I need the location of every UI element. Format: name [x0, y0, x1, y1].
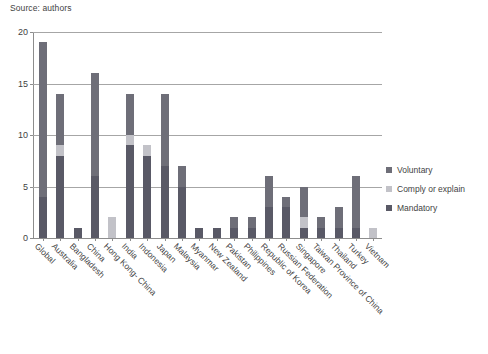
bar-segment-mandatory	[230, 228, 238, 238]
bar-segment-voluntary	[335, 207, 343, 228]
bar-slot	[138, 32, 155, 238]
bar-segment-voluntary	[39, 42, 47, 197]
legend-label: Mandatory	[397, 203, 437, 213]
stacked-bar[interactable]	[56, 94, 64, 238]
bar-slot	[330, 32, 347, 238]
bar-slot	[295, 32, 312, 238]
x-axis-tick-mark	[234, 238, 235, 241]
bar-segment-mandatory	[126, 145, 134, 238]
x-axis-tick-mark	[95, 238, 96, 241]
stacked-bar[interactable]	[352, 176, 360, 238]
bar-segment-voluntary	[126, 94, 134, 135]
x-axis-tick-mark	[286, 238, 287, 241]
x-axis-tick-mark	[130, 238, 131, 241]
x-axis-line	[33, 238, 382, 239]
bar-slot	[208, 32, 225, 238]
bar-segment-mandatory	[265, 207, 273, 238]
bar-slot	[86, 32, 103, 238]
legend-item[interactable]: Mandatory	[386, 198, 486, 217]
stacked-bar[interactable]	[143, 145, 151, 238]
legend-item[interactable]: Comply or explain	[386, 179, 486, 198]
chart-figure: Source: authors 05101520 GlobalAustralia…	[0, 0, 488, 354]
bar-slot	[260, 32, 277, 238]
y-axis-tick-mark	[30, 135, 33, 136]
bar-segment-voluntary	[91, 73, 99, 176]
bar-slot	[225, 32, 242, 238]
stacked-bar[interactable]	[178, 166, 186, 238]
stacked-bar[interactable]	[282, 197, 290, 238]
bar-segment-comply-or-explain	[126, 135, 134, 145]
x-axis-tick-mark	[304, 238, 305, 241]
bar-slot	[156, 32, 173, 238]
x-axis-tick-mark	[182, 238, 183, 241]
bar-slot	[191, 32, 208, 238]
stacked-bar[interactable]	[161, 94, 169, 238]
bar-segment-comply-or-explain	[56, 145, 64, 155]
y-axis-tick-mark	[30, 32, 33, 33]
bar-segment-mandatory	[317, 228, 325, 238]
x-axis-tick-mark	[147, 238, 148, 241]
bar-segment-mandatory	[195, 228, 203, 238]
stacked-bar[interactable]	[317, 217, 325, 238]
bar-segment-comply-or-explain	[300, 217, 308, 227]
bar-segment-voluntary	[178, 166, 186, 187]
x-axis-tick-mark	[252, 238, 253, 241]
bar-segment-voluntary	[352, 176, 360, 228]
bar-segment-mandatory	[161, 166, 169, 238]
legend-swatch-icon	[386, 186, 392, 192]
stacked-bar[interactable]	[300, 187, 308, 238]
bar-segment-voluntary	[317, 217, 325, 227]
chart-legend: VoluntaryComply or explainMandatory	[386, 160, 486, 217]
stacked-bar[interactable]	[248, 217, 256, 238]
stacked-bar[interactable]	[335, 207, 343, 238]
bar-slot	[104, 32, 121, 238]
stacked-bar[interactable]	[195, 228, 203, 238]
plot-area: 05101520	[33, 32, 382, 239]
bar-segment-mandatory	[178, 187, 186, 239]
stacked-bar[interactable]	[126, 94, 134, 238]
x-axis-tick-mark	[339, 238, 340, 241]
bar-segment-mandatory	[56, 156, 64, 238]
y-axis-tick-label: 10	[18, 130, 28, 140]
bar-slot	[173, 32, 190, 238]
x-axis-tick-mark	[60, 238, 61, 241]
legend-swatch-icon	[386, 167, 392, 173]
bar-segment-mandatory	[74, 228, 82, 238]
bar-series-group	[34, 32, 382, 238]
stacked-bar[interactable]	[39, 42, 47, 238]
bar-segment-voluntary	[282, 197, 290, 207]
bar-slot	[243, 32, 260, 238]
bar-segment-mandatory	[335, 228, 343, 238]
bar-segment-voluntary	[300, 187, 308, 218]
bar-segment-mandatory	[300, 228, 308, 238]
bar-segment-mandatory	[248, 228, 256, 238]
x-axis-tick-mark	[217, 238, 218, 241]
x-axis-tick-mark	[199, 238, 200, 241]
legend-label: Comply or explain	[397, 184, 465, 194]
bar-segment-mandatory	[143, 156, 151, 238]
bar-segment-voluntary	[265, 176, 273, 207]
stacked-bar[interactable]	[230, 217, 238, 238]
bar-segment-comply-or-explain	[108, 217, 116, 238]
x-axis-tick-mark	[112, 238, 113, 241]
y-axis-tick-label: 20	[18, 27, 28, 37]
stacked-bar[interactable]	[91, 73, 99, 238]
stacked-bar[interactable]	[369, 228, 377, 238]
source-note: Source: authors	[10, 3, 72, 13]
bar-slot	[69, 32, 86, 238]
legend-swatch-icon	[386, 205, 392, 211]
legend-item[interactable]: Voluntary	[386, 160, 486, 179]
bar-slot	[34, 32, 51, 238]
stacked-bar[interactable]	[108, 217, 116, 238]
stacked-bar[interactable]	[265, 176, 273, 238]
stacked-bar[interactable]	[213, 228, 221, 238]
bar-segment-comply-or-explain	[143, 145, 151, 155]
bar-slot	[347, 32, 364, 238]
bar-slot	[121, 32, 138, 238]
x-axis-tick-mark	[269, 238, 270, 241]
y-axis-tick-label: 15	[18, 79, 28, 89]
x-axis-tick-mark	[78, 238, 79, 241]
bar-segment-comply-or-explain	[369, 228, 377, 238]
bar-segment-mandatory	[91, 176, 99, 238]
stacked-bar[interactable]	[74, 228, 82, 238]
